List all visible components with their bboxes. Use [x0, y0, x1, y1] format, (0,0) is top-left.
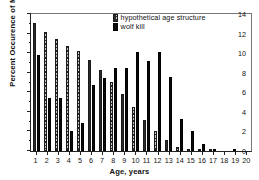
bar-hyp-age-2: [44, 32, 48, 151]
y-tick-mark: [27, 91, 31, 92]
bar-group: [218, 14, 229, 151]
bar-hyp-age-7: [99, 70, 103, 151]
bar-hyp-age-13: [165, 140, 169, 151]
y-tick-label: 12: [238, 29, 246, 38]
x-tick-cell: 6: [85, 152, 96, 166]
y-tick-mark: [29, 82, 31, 83]
x-tick-cell: 12: [152, 152, 163, 166]
x-tick-cell: 4: [63, 152, 74, 166]
bar-group: [152, 14, 163, 151]
bar-kill-age-16: [202, 144, 206, 151]
plot-area: 02468101214: [30, 13, 252, 152]
x-tick-mark: [191, 152, 192, 155]
x-tick-label: 4: [63, 156, 74, 165]
x-tick-cell: 16: [196, 152, 207, 166]
y-tick-mark: [29, 121, 31, 122]
bar-kill-age-6: [92, 85, 96, 151]
bar-hyp-age-15: [187, 149, 191, 151]
x-axis-ticks: 1234567891011121314151617181920: [30, 152, 252, 166]
bar-group: [207, 14, 218, 151]
bar-kill-age-5: [81, 123, 85, 151]
x-tick-mark: [202, 152, 203, 155]
x-tick-cell: 7: [97, 152, 108, 166]
bar-hyp-age-17: [209, 149, 213, 151]
x-tick-mark: [180, 152, 181, 155]
x-tick-cell: 20: [241, 152, 252, 166]
x-tick-cell: 17: [208, 152, 219, 166]
y-tick-mark: [29, 101, 31, 102]
legend-label: hypothetical age structure: [121, 13, 206, 22]
bar-kill-age-1: [37, 55, 41, 151]
bar-group: [163, 14, 174, 151]
x-tick-cell: 14: [174, 152, 185, 166]
bar-kill-age-10: [136, 52, 140, 151]
y-tick-mark: [27, 33, 31, 34]
bar-hyp-age-1: [33, 23, 37, 151]
x-tick-label: 2: [41, 156, 52, 165]
legend-swatch-kill: [113, 23, 118, 31]
x-tick-cell: 5: [74, 152, 85, 166]
bar-kill-age-9: [125, 68, 129, 151]
bar-kill-age-3: [59, 98, 63, 151]
x-tick-cell: 10: [130, 152, 141, 166]
bar-group: [75, 14, 86, 151]
x-tick-cell: 11: [141, 152, 152, 166]
bar-group: [64, 14, 75, 151]
bar-kill-age-7: [103, 78, 107, 151]
bar-kill-age-13: [169, 77, 173, 151]
x-tick-mark: [213, 152, 214, 155]
x-tick-mark: [246, 152, 247, 155]
bar-groups: [31, 14, 251, 151]
x-tick-label: 7: [97, 156, 108, 165]
x-tick-mark: [158, 152, 159, 155]
bar-kill-age-8: [114, 68, 118, 151]
y-tick-label: 6: [242, 88, 246, 97]
x-tick-label: 5: [74, 156, 85, 165]
y-tick-label: 4: [242, 107, 246, 116]
y-tick-mark: [29, 140, 31, 141]
y-tick-mark: [27, 111, 31, 112]
bar-hyp-age-9: [121, 94, 125, 151]
x-tick-mark: [91, 152, 92, 155]
y-tick-label: 14: [238, 10, 246, 19]
y-tick-mark: [29, 23, 31, 24]
bar-kill-age-4: [70, 131, 74, 151]
y-tick-label: 10: [238, 49, 246, 58]
y-tick-mark: [29, 42, 31, 43]
x-tick-cell: 19: [230, 152, 241, 166]
chart-figure: Percent Occurence of Moose 02468101214 1…: [0, 0, 259, 180]
x-tick-mark: [102, 152, 103, 155]
x-tick-mark: [113, 152, 114, 155]
bar-kill-age-17: [213, 149, 217, 151]
legend-swatch-hyp: [113, 14, 118, 22]
x-tick-label: 1: [30, 156, 41, 165]
x-tick-cell: 13: [163, 152, 174, 166]
x-tick-label: 15: [185, 156, 196, 165]
x-tick-label: 9: [119, 156, 130, 165]
bar-hyp-age-5: [77, 51, 81, 151]
x-tick-mark: [146, 152, 147, 155]
bar-group: [31, 14, 42, 151]
legend-item-hyp: hypothetical age structure: [113, 13, 206, 22]
bar-hyp-age-11: [143, 120, 147, 151]
bar-group: [42, 14, 53, 151]
x-tick-mark: [36, 152, 37, 155]
bar-group: [130, 14, 141, 151]
bar-group: [196, 14, 207, 151]
x-tick-label: 6: [85, 156, 96, 165]
legend-label: wolf kill: [121, 22, 145, 31]
x-tick-mark: [58, 152, 59, 155]
bar-hyp-age-6: [88, 60, 92, 151]
y-tick-mark: [27, 130, 31, 131]
legend-item-kill: wolf kill: [113, 22, 206, 31]
x-tick-label: 10: [130, 156, 141, 165]
bar-kill-age-2: [48, 98, 52, 151]
y-tick-mark: [27, 72, 31, 73]
bar-kill-age-14: [180, 119, 184, 151]
bar-hyp-age-3: [55, 39, 59, 151]
x-tick-cell: 18: [219, 152, 230, 166]
bar-group: [97, 14, 108, 151]
bar-hyp-age-8: [110, 82, 114, 151]
y-tick-mark: [27, 52, 31, 53]
bar-hyp-age-10: [132, 107, 136, 151]
